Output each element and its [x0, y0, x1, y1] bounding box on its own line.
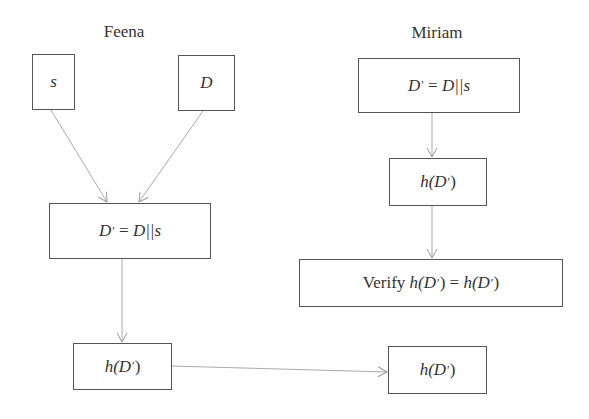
node-secret-s: s: [32, 54, 75, 110]
node-feena-concat: D′ = D||s: [49, 203, 211, 259]
edge-hash-to-received: [171, 366, 387, 372]
node-miriam-verify: Verify h(D′) = h(D′): [299, 259, 563, 307]
pre: h(D: [105, 357, 131, 377]
node-data-D: D: [178, 55, 235, 111]
edge-s-to-concat: [51, 110, 107, 202]
node-text: D: [200, 73, 212, 93]
node-received-hash: h(D′): [388, 346, 487, 394]
post: ): [135, 357, 141, 377]
rhs: D||s: [133, 221, 161, 241]
node-text: s: [50, 72, 57, 92]
pre2: h(D: [463, 273, 489, 293]
participant-miriam-label: Miriam: [412, 23, 463, 43]
pre1: h(D: [410, 273, 436, 293]
lhs: D: [408, 76, 420, 96]
node-miriam-hash: h(D′): [389, 158, 487, 206]
equals: =: [424, 76, 442, 96]
edge-D-to-concat: [139, 111, 203, 202]
equals: =: [115, 221, 133, 241]
pre: h(D: [420, 172, 446, 192]
lhs: D: [99, 221, 111, 241]
rhs: D||s: [442, 76, 470, 96]
equals: =: [445, 273, 463, 293]
participant-feena-label: Feena: [104, 22, 145, 42]
post: ): [450, 360, 456, 380]
post: ): [450, 172, 456, 192]
post2: ): [493, 273, 499, 293]
node-miriam-concat: D′ = D||s: [358, 58, 520, 113]
node-feena-hash: h(D′): [73, 343, 172, 390]
pre: h(D: [420, 360, 446, 380]
verify-verb: Verify: [363, 273, 410, 293]
